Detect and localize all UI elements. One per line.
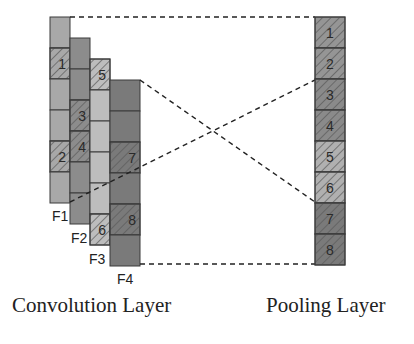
cell-number-label: 2 bbox=[58, 149, 66, 165]
feature-cell bbox=[90, 152, 110, 183]
pooling-layer: 12345678 bbox=[315, 17, 345, 265]
feature-cell bbox=[50, 172, 70, 203]
pool-cell-number: 8 bbox=[326, 242, 334, 258]
pool-cell-number: 4 bbox=[326, 118, 334, 134]
feature-map-label: F1 bbox=[52, 208, 69, 224]
feature-cell bbox=[110, 111, 140, 142]
feature-cell bbox=[70, 38, 90, 69]
convolution-layer: 12F134F256F378F4 bbox=[50, 17, 140, 287]
feature-cell bbox=[90, 121, 110, 152]
cell-number-label: 7 bbox=[128, 150, 136, 166]
pool-cell-number: 6 bbox=[326, 180, 334, 196]
f4-top-to-pool-6-line bbox=[140, 80, 315, 202]
feature-map-f4: 78F4 bbox=[110, 80, 140, 287]
feature-cell bbox=[90, 183, 110, 214]
pool-cell-number: 5 bbox=[326, 149, 334, 165]
pool-cell-number: 3 bbox=[326, 87, 334, 103]
feature-map-f3: 56F3 bbox=[89, 59, 110, 267]
feature-cell bbox=[70, 69, 90, 100]
feature-map-f2: 34F2 bbox=[70, 38, 90, 246]
cell-number-label: 8 bbox=[128, 212, 136, 228]
feature-map-label: F3 bbox=[89, 251, 106, 267]
feature-cell bbox=[110, 235, 140, 266]
feature-cell bbox=[90, 90, 110, 121]
cell-number-label: 1 bbox=[58, 56, 66, 72]
feature-cell bbox=[110, 80, 140, 111]
cell-number-label: 3 bbox=[78, 108, 86, 124]
feature-cell bbox=[110, 173, 140, 204]
convolution-layer-caption: Convolution Layer bbox=[12, 293, 171, 318]
feature-cell bbox=[50, 17, 70, 48]
feature-cell bbox=[50, 110, 70, 141]
feature-cell bbox=[50, 79, 70, 110]
pool-cell-number: 2 bbox=[326, 56, 334, 72]
cell-number-label: 5 bbox=[98, 67, 106, 83]
pooling-layer-caption: Pooling Layer bbox=[266, 293, 386, 318]
feature-cell bbox=[70, 162, 90, 193]
feature-map-label: F4 bbox=[117, 271, 134, 287]
pool-cell-number: 1 bbox=[326, 25, 334, 41]
cell-number-label: 4 bbox=[78, 139, 86, 155]
cell-number-label: 6 bbox=[98, 222, 106, 238]
pool-cell-number: 7 bbox=[326, 211, 334, 227]
feature-map-f1: 12F1 bbox=[50, 17, 70, 224]
feature-map-label: F2 bbox=[71, 230, 88, 246]
